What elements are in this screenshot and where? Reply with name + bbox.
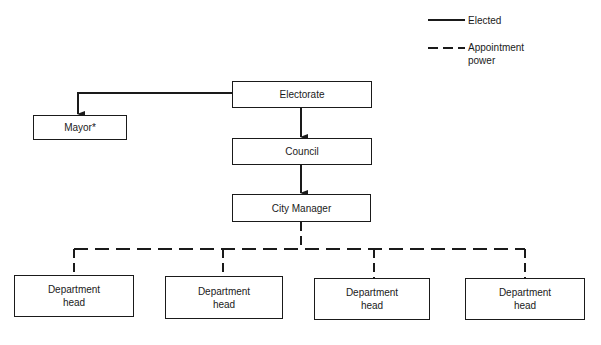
department-head-2-line1: Department [198,285,250,298]
legend-elected-label: Elected [468,14,501,27]
department-head-box-3: Department head [314,278,430,320]
electorate-box: Electorate [232,81,372,108]
council-box: Council [232,138,372,165]
department-head-1-line2: head [48,296,100,309]
council-label: Council [285,145,318,158]
department-head-box-1: Department head [14,275,134,317]
department-head-1-line1: Department [48,283,100,296]
electorate-label: Electorate [279,88,324,101]
department-head-box-2: Department head [165,276,283,319]
department-head-4-line1: Department [499,286,551,299]
legend-appointment-line1: Appointment [468,41,524,54]
mayor-box: Mayor* [33,115,127,140]
department-head-3-line2: head [346,299,398,312]
electorate-to-mayor-connector [78,93,232,114]
city-manager-box: City Manager [232,194,371,222]
department-head-3-line1: Department [346,286,398,299]
department-head-2-line2: head [198,298,250,311]
mayor-label: Mayor* [64,121,96,134]
department-head-box-4: Department head [465,278,585,320]
legend-appointment-label: Appointment power [468,41,524,67]
department-head-4-line2: head [499,299,551,312]
city-manager-label: City Manager [272,202,331,215]
legend-appointment-line2: power [468,54,524,67]
